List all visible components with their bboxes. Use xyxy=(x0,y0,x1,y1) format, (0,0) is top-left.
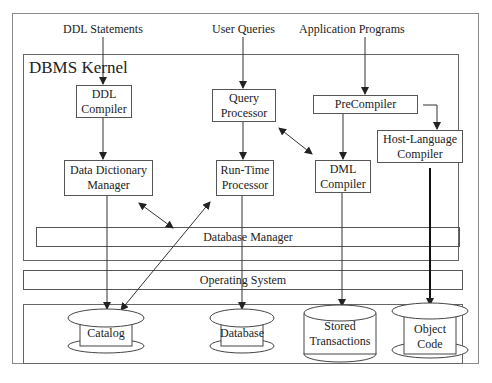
stored-transactions-line2: Transactions xyxy=(302,334,378,349)
storage-database: Database xyxy=(219,326,265,341)
storage-stored-transactions: Stored Transactions xyxy=(302,319,378,349)
ddl-compiler-box: DDL Compiler xyxy=(76,85,132,118)
database-manager-band: Database Manager xyxy=(36,227,460,247)
label-application-programs: Application Programs xyxy=(299,22,405,37)
data-dictionary-manager-line2: Manager xyxy=(87,178,130,193)
runtime-processor-line1: Run-Time xyxy=(221,163,270,178)
dml-compiler-line1: DML xyxy=(330,162,357,177)
host-language-compiler-line2: Compiler xyxy=(397,147,442,162)
query-processor-line1: Query xyxy=(229,91,259,106)
ddl-compiler-line2: Compiler xyxy=(81,102,126,117)
catalog-label: Catalog xyxy=(87,326,124,340)
label-ddl-statements: DDL Statements xyxy=(63,22,143,37)
database-manager-label: Database Manager xyxy=(203,230,293,245)
stored-transactions-line1: Stored xyxy=(302,319,378,334)
query-processor-box: Query Processor xyxy=(212,89,276,122)
data-dictionary-manager-box: Data Dictionary Manager xyxy=(64,160,153,196)
precompiler-box: PreCompiler xyxy=(313,95,418,114)
operating-system-band: Operating System xyxy=(23,270,463,290)
operating-system-label: Operating System xyxy=(200,273,286,288)
precompiler-label: PreCompiler xyxy=(335,97,396,112)
object-code-line2: Code xyxy=(404,337,456,352)
host-language-compiler-box: Host-Language Compiler xyxy=(377,130,463,163)
runtime-processor-line2: Processor xyxy=(222,178,269,193)
dml-compiler-box: DML Compiler xyxy=(315,160,371,193)
ddl-compiler-line1: DDL xyxy=(92,87,117,102)
dml-compiler-line2: Compiler xyxy=(320,177,365,192)
host-language-compiler-line1: Host-Language xyxy=(383,132,457,147)
storage-catalog: Catalog xyxy=(80,326,132,341)
query-processor-line2: Processor xyxy=(221,106,268,121)
label-user-queries: User Queries xyxy=(212,22,275,37)
dbms-kernel-title: DBMS Kernel xyxy=(29,58,128,78)
database-label: Database xyxy=(220,326,264,340)
storage-object-code: Object Code xyxy=(404,322,456,352)
data-dictionary-manager-line1: Data Dictionary xyxy=(70,163,147,178)
runtime-processor-box: Run-Time Processor xyxy=(216,160,274,196)
object-code-line1: Object xyxy=(404,322,456,337)
